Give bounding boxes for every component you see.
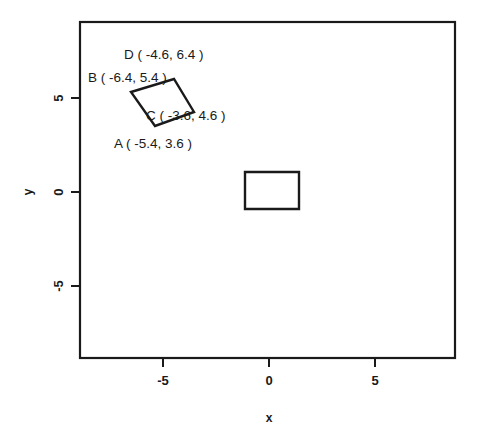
x-tick-label-neg5: -5	[157, 373, 169, 388]
y-tick-label-0: 0	[51, 188, 66, 195]
coordinate-plot: -5 0 5 x 5 0 -5 y D ( -4.6, 6.4 ) B ( -6…	[0, 0, 479, 442]
chart-figure: -5 0 5 x 5 0 -5 y D ( -4.6, 6.4 ) B ( -6…	[0, 0, 479, 442]
y-axis-title: y	[21, 188, 35, 195]
label-point-c: C ( -3.6, 4.6 )	[146, 108, 226, 123]
x-tick-label-0: 0	[265, 373, 272, 388]
x-tick-label-5: 5	[371, 373, 378, 388]
y-tick-label-neg5: -5	[51, 280, 66, 292]
x-axis-title: x	[266, 411, 273, 425]
label-point-b: B ( -6.4, 5.4 )	[88, 70, 167, 85]
plot-background	[0, 0, 479, 442]
label-point-d: D ( -4.6, 6.4 )	[124, 47, 204, 62]
y-tick-label-5: 5	[51, 94, 66, 101]
label-point-a: A ( -5.4, 3.6 )	[114, 136, 192, 151]
